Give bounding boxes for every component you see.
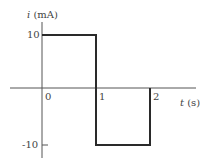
x-tick-label-0: 0 xyxy=(45,92,51,102)
y-axis-label: i (mA) xyxy=(27,10,58,20)
current-waveform xyxy=(42,35,150,145)
x-tick-label-2: 2 xyxy=(153,92,159,102)
x-axis-label: t (s) xyxy=(180,98,200,108)
x-tick-label-1: 1 xyxy=(99,92,105,102)
y-tick-label-10: 10 xyxy=(27,30,40,40)
y-tick-label-neg10: -10 xyxy=(22,140,38,150)
